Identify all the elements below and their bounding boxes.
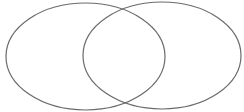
venn-set-right-ellipse (83, 2, 241, 109)
venn-diagram (0, 0, 244, 112)
venn-set-left-ellipse (6, 3, 165, 110)
